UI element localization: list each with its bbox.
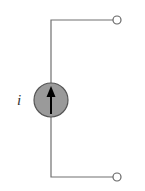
current-source-icon (34, 83, 68, 117)
bottom-wire (51, 117, 113, 177)
top-terminal-icon (113, 16, 121, 24)
top-wire (51, 20, 113, 83)
current-label: i (17, 93, 21, 108)
bottom-terminal-icon (113, 173, 121, 181)
circuit-diagram (0, 0, 145, 191)
